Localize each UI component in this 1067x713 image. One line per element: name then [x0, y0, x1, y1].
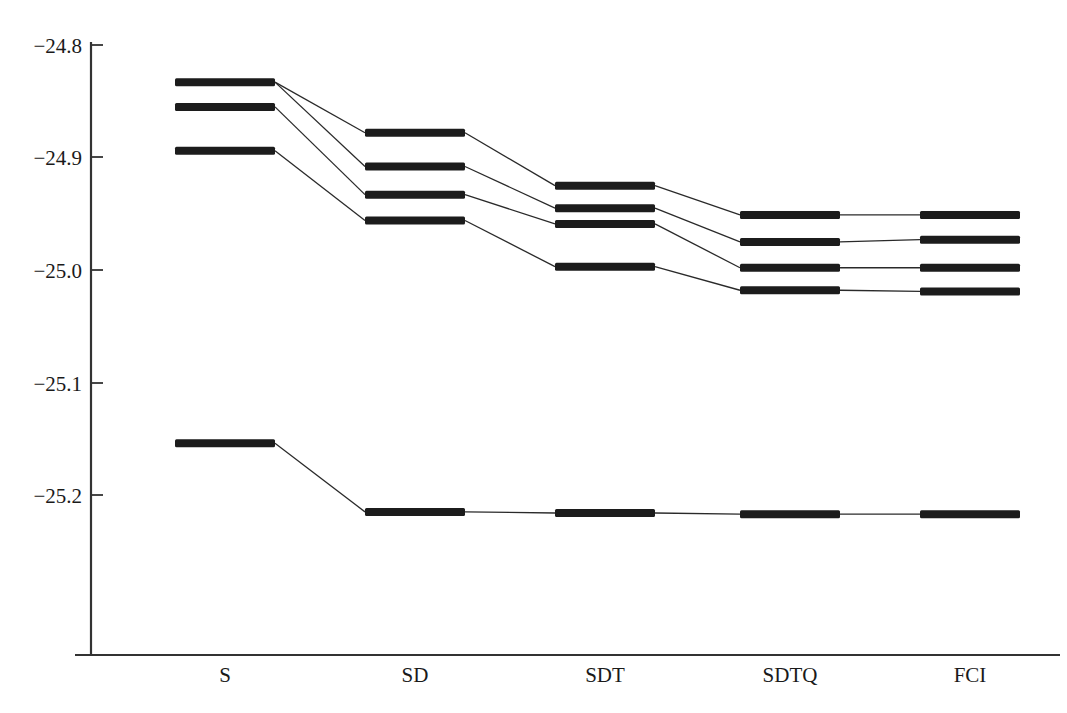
- level-connector: [655, 208, 740, 242]
- energy-level-bar: [365, 508, 465, 516]
- energy-level-bar: [920, 264, 1020, 272]
- level-connector: [275, 151, 365, 221]
- level-connector: [655, 224, 740, 268]
- energy-level-bar: [920, 211, 1020, 219]
- energy-level-bar: [365, 129, 465, 137]
- chart-figure: −24.8 −24.9 −25.0 −25.1 −25.2 S SD SDT S…: [0, 0, 1067, 713]
- energy-level-bar: [920, 287, 1020, 295]
- level-connector: [840, 290, 920, 291]
- level-connector: [275, 107, 365, 195]
- energy-level-bar: [175, 103, 275, 111]
- level-connector: [465, 167, 555, 209]
- energy-level-bar: [555, 182, 655, 190]
- energy-level-bar: [740, 286, 840, 294]
- level-connector: [275, 82, 365, 166]
- energy-level-bar: [175, 439, 275, 447]
- energy-level-bar: [920, 236, 1020, 244]
- level-connector: [275, 443, 365, 512]
- energy-level-bar: [175, 147, 275, 155]
- energy-level-bar: [555, 220, 655, 228]
- energy-level-bar: [740, 211, 840, 219]
- level-connector: [465, 133, 555, 186]
- energy-level-bar: [365, 217, 465, 225]
- y-tick-marks: [91, 45, 103, 495]
- energy-level-bar: [555, 263, 655, 271]
- energy-level-bar: [555, 509, 655, 517]
- level-connector: [840, 240, 920, 242]
- level-connector: [465, 512, 555, 513]
- energy-level-bar: [175, 78, 275, 86]
- level-connector: [655, 186, 740, 215]
- energy-level-bar: [365, 191, 465, 199]
- level-connector-lines: [275, 82, 920, 514]
- energy-level-bar: [740, 264, 840, 272]
- energy-level-bar: [740, 510, 840, 518]
- energy-level-bar: [365, 163, 465, 171]
- energy-level-bar: [920, 510, 1020, 518]
- energy-level-bar: [740, 238, 840, 246]
- level-connector: [465, 221, 555, 267]
- level-connector: [655, 513, 740, 514]
- energy-level-bar: [555, 204, 655, 212]
- level-connector: [465, 195, 555, 224]
- energy-level-markers: [175, 78, 1020, 518]
- level-connector: [655, 267, 740, 291]
- plot-canvas: [0, 0, 1067, 713]
